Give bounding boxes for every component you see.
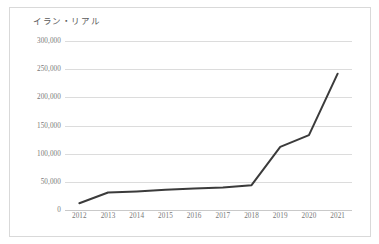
- x-tick-label: 2020: [302, 212, 317, 220]
- x-tick-label: 2019: [273, 212, 288, 220]
- y-tick-label: 250,000: [37, 65, 61, 73]
- x-tick-label: 2015: [158, 212, 173, 220]
- chart-title: イラン・リアル: [33, 14, 100, 26]
- y-axis-labels: 050,000100,000150,000200,000250,000300,0…: [18, 41, 61, 210]
- x-tick-label: 2017: [215, 212, 230, 220]
- y-tick-label: 100,000: [37, 150, 61, 158]
- gridline: [65, 210, 352, 211]
- x-tick-label: 2016: [187, 212, 202, 220]
- line-series-iran-rial: [79, 74, 337, 204]
- x-axis-labels: 2012201320142015201620172018201920202021: [65, 212, 352, 228]
- y-tick-label: 0: [57, 206, 61, 214]
- chart-figure: イラン・リアル 050,000100,000150,000200,000250,…: [0, 0, 379, 244]
- y-tick-label: 200,000: [37, 93, 61, 101]
- series-svg: [65, 41, 352, 210]
- x-tick-label: 2012: [72, 212, 87, 220]
- x-tick-label: 2018: [244, 212, 259, 220]
- plot-area: [65, 41, 352, 210]
- y-tick-label: 300,000: [37, 37, 61, 45]
- x-tick-label: 2021: [330, 212, 345, 220]
- x-tick-label: 2014: [129, 212, 144, 220]
- x-tick-label: 2013: [101, 212, 116, 220]
- y-tick-label: 50,000: [41, 178, 61, 186]
- y-tick-label: 150,000: [37, 122, 61, 130]
